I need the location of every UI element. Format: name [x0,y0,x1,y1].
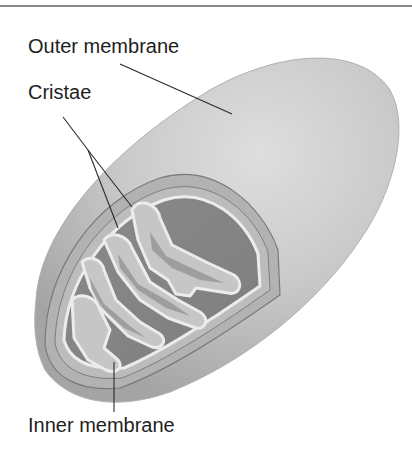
label-outer-membrane: Outer membrane [28,36,179,56]
label-inner-membrane: Inner membrane [28,415,175,435]
mitochondrion-diagram [0,0,412,449]
label-cristae: Cristae [28,82,91,102]
leader-cristae [63,117,88,150]
